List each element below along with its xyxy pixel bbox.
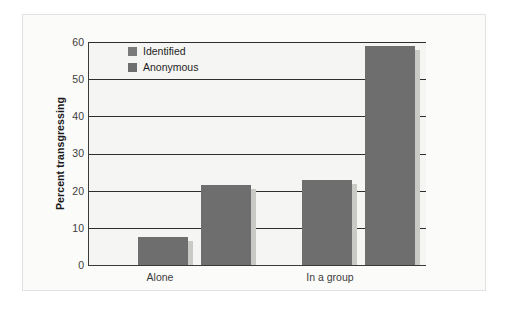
legend-label-identified: Identified — [143, 46, 186, 57]
y-tick-label-0: 0 — [54, 260, 84, 271]
x-tick-label-alone: Alone — [120, 272, 200, 283]
legend: Identified Anonymous — [128, 44, 198, 76]
y-tick-label-30: 30 — [54, 148, 84, 159]
legend-item-identified[interactable]: Identified — [128, 44, 198, 58]
bar-alone-anonymous[interactable] — [201, 185, 251, 265]
y-tick-label-10: 10 — [54, 223, 84, 234]
bar-group-identified[interactable] — [302, 180, 352, 265]
bar-alone-identified[interactable] — [138, 237, 188, 265]
y-tick-label-40: 40 — [54, 111, 84, 122]
x-tick-label-in-a-group: In a group — [285, 272, 375, 283]
figure-container: Percent transgressing 60 50 40 30 20 10 … — [0, 0, 508, 311]
gridline-60 — [89, 42, 426, 43]
y-tick-label-60: 60 — [54, 37, 84, 48]
bar-group-anonymous[interactable] — [365, 46, 415, 265]
legend-swatch-icon-identified — [128, 47, 137, 56]
legend-label-anonymous: Anonymous — [143, 62, 198, 73]
legend-item-anonymous[interactable]: Anonymous — [128, 60, 198, 74]
y-tick-label-50: 50 — [54, 74, 84, 85]
y-tick-label-20: 20 — [54, 186, 84, 197]
legend-swatch-icon-anonymous — [128, 63, 137, 72]
